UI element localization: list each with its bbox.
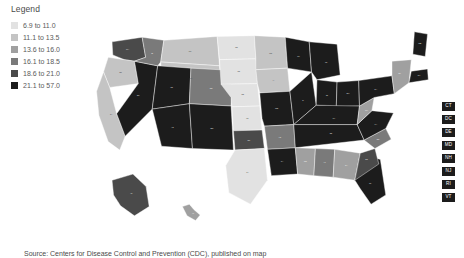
state-mi[interactable] — [309, 42, 340, 80]
state-la[interactable] — [267, 148, 297, 176]
state-nd[interactable] — [217, 36, 256, 60]
state-ak[interactable] — [112, 174, 149, 216]
state-tn[interactable] — [294, 125, 364, 148]
state-ut[interactable] — [152, 66, 191, 109]
callout-nj[interactable]: NJ — [441, 166, 456, 177]
callout-ri[interactable]: RI — [441, 179, 456, 190]
state-sd[interactable] — [220, 59, 258, 85]
state-oh[interactable] — [336, 81, 359, 107]
state-ny[interactable] — [392, 60, 411, 94]
callout-de[interactable]: DE — [441, 127, 456, 138]
legend-item-label: 6.9 to 11.0 — [23, 22, 56, 29]
legend-item[interactable]: 21.1 to 57.0 — [8, 80, 82, 90]
callout-label: VT — [445, 195, 451, 200]
us-map-container: WAORCANVIDMTWYUTAZCONMNDSDNEKSOKTXMNIAMO… — [66, 14, 438, 246]
callout-label: NJ — [446, 169, 452, 174]
legend-item-label: 13.6 to 16.0 — [23, 46, 60, 53]
small-state-callout-list: CTDCDEMDNHNJRIVT — [441, 101, 456, 203]
legend-color-swatch — [11, 58, 18, 65]
choropleth-map-figure: Legend 6.9 to 11.011.1 to 13.513.6 to 16… — [0, 0, 464, 258]
legend-item[interactable]: 13.6 to 16.0 — [8, 44, 82, 54]
callout-md[interactable]: MD — [441, 140, 456, 151]
state-az[interactable] — [152, 104, 192, 149]
state-me[interactable] — [413, 32, 428, 57]
state-ia[interactable] — [256, 68, 290, 93]
states-layer — [97, 32, 429, 221]
state-mo[interactable] — [260, 91, 294, 126]
state-or[interactable] — [104, 57, 139, 87]
callout-label: CT — [445, 104, 451, 109]
legend-item-label: 21.1 to 57.0 — [23, 82, 60, 89]
state-mn[interactable] — [254, 36, 287, 70]
callout-label: MD — [445, 143, 452, 148]
state-al[interactable] — [314, 149, 335, 178]
state-wa[interactable] — [112, 37, 146, 61]
callout-label: RI — [446, 182, 451, 187]
state-ks[interactable] — [232, 106, 262, 131]
callout-dc[interactable]: DC — [441, 114, 456, 125]
state-ms[interactable] — [295, 148, 315, 176]
legend-color-swatch — [11, 46, 18, 53]
state-in[interactable] — [316, 80, 337, 107]
state-tx[interactable] — [226, 149, 268, 205]
legend-color-swatch — [11, 82, 18, 89]
callout-label: NH — [445, 156, 452, 161]
state-mt[interactable] — [161, 36, 220, 65]
legend-item[interactable]: 11.1 to 13.5 — [8, 32, 82, 42]
figure-caption: Source: Centers for Disease Control and … — [24, 249, 444, 258]
state-pa[interactable] — [359, 76, 395, 106]
legend-color-swatch — [11, 34, 18, 41]
state-wi[interactable] — [285, 37, 311, 72]
state-ok[interactable] — [233, 130, 264, 150]
legend-color-swatch — [11, 22, 18, 29]
map-legend: Legend 6.9 to 11.011.1 to 13.513.6 to 16… — [8, 4, 82, 92]
state-hi[interactable] — [182, 204, 200, 220]
legend-item-label: 11.1 to 13.5 — [23, 34, 59, 41]
state-ma[interactable] — [409, 69, 428, 83]
legend-item[interactable]: 18.6 to 21.0 — [8, 68, 82, 78]
legend-item[interactable]: 6.9 to 11.0 — [8, 20, 82, 30]
legend-title: Legend — [11, 4, 82, 14]
legend-item-label: 18.6 to 21.0 — [23, 70, 60, 77]
callout-ct[interactable]: CT — [441, 101, 456, 112]
legend-item-label: 16.1 to 18.5 — [23, 58, 60, 65]
callout-label: DE — [445, 130, 452, 135]
callout-label: DC — [445, 117, 452, 122]
callout-nh[interactable]: NH — [441, 153, 456, 164]
state-ar[interactable] — [264, 125, 295, 150]
legend-item[interactable]: 16.1 to 18.5 — [8, 56, 82, 66]
legend-item-list: 6.9 to 11.011.1 to 13.513.6 to 16.016.1 … — [8, 20, 82, 90]
us-states-svg: WAORCANVIDMTWYUTAZCONMNDSDNEKSOKTXMNIAMO… — [66, 14, 438, 246]
legend-color-swatch — [11, 70, 18, 77]
callout-vt[interactable]: VT — [441, 192, 456, 203]
state-nm[interactable] — [189, 104, 233, 150]
